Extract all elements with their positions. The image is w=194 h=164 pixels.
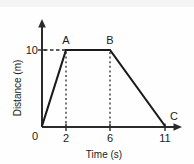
distance-time-chart: 10 0 2 6 11 A B C Distance (m) Time (s) [0, 0, 194, 164]
point-label-b: B [106, 34, 113, 46]
x-axis-title: Time (s) [86, 149, 122, 160]
point-label-c: C [170, 110, 178, 122]
x-tick-label-6: 6 [107, 132, 113, 144]
y-tick-label-10: 10 [26, 44, 38, 56]
x-tick-label-11: 11 [159, 132, 170, 144]
y-axis-title: Distance (m) [12, 60, 23, 117]
distance-time-graph-figure: 10 0 2 6 11 A B C Distance (m) Time (s) [0, 0, 194, 164]
y-tick-label-0: 0 [32, 130, 38, 142]
point-label-a: A [62, 34, 70, 46]
distance-time-line [42, 50, 165, 126]
x-axis-arrowhead [174, 123, 183, 131]
x-tick-label-2: 2 [63, 132, 69, 144]
y-axis-arrowhead [38, 19, 46, 28]
